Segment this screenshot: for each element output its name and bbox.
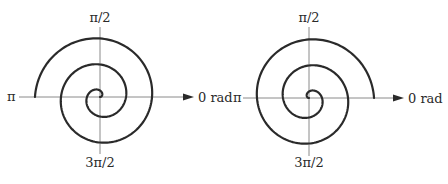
- label-pi: π: [7, 89, 16, 104]
- spiral-diagrams: π/2 π 0 rad 3π/2 π/2 π 0 rad 3π/2: [0, 0, 448, 184]
- label-0-rad: 0 rad: [198, 90, 233, 105]
- label-0-rad: 0 rad: [408, 91, 443, 106]
- label-pi-over-2: π/2: [298, 10, 319, 25]
- arrow-icon: [393, 95, 404, 102]
- arrow-icon: [183, 94, 194, 101]
- spiral-curve: [257, 39, 374, 143]
- label-3pi-over-2: 3π/2: [85, 155, 114, 170]
- diagram-left: π/2 π 0 rad 3π/2: [7, 10, 233, 170]
- label-3pi-over-2: 3π/2: [294, 155, 323, 170]
- spiral-curve: [35, 38, 152, 142]
- diagram-right: π/2 π 0 rad 3π/2: [233, 10, 443, 170]
- label-pi-over-2: π/2: [89, 10, 110, 25]
- label-pi: π: [233, 90, 242, 105]
